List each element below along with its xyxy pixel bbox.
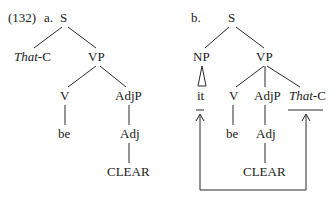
tree-a-node-that-c: That-C [14,49,51,64]
example-number: (132) [8,10,36,25]
tree-a-node-CLEAR: CLEAR [107,164,150,179]
tree-b-edge-S-NP [205,27,229,48]
tree-b-node-NP: NP [193,49,210,64]
tree-a-edge-VP-AdjP [100,66,126,87]
tree-a-node-S: S [60,10,67,25]
tree-b-node-AdjP: AdjP [254,88,281,103]
tree-b-node-V: V [229,88,239,103]
tree-b-edge-VP-V [236,66,264,87]
tree-b-node-S: S [228,10,235,25]
tree-a-node-AdjP: AdjP [115,88,142,103]
tree-b-label: b. [191,10,201,25]
tree-a-edge-VP-V [68,66,96,87]
tree-b-edge-VP-thatc [267,66,300,87]
tree-a-node-V: V [60,88,70,103]
syntax-tree-diagram: (132) a. S That-C VP V AdjP be Adj CLEAR… [0,0,336,198]
tree-a-node-Adj: Adj [120,126,140,141]
tree-b-edge-S-VP [236,27,264,48]
tree-b-node-that-c: That-C [289,88,326,103]
tree-a-edge-S-thatc [34,27,62,48]
tree-a-node-VP: VP [88,49,105,64]
tree-a-edge-S-VP [68,27,96,48]
tree-b-node-VP: VP [256,49,273,64]
tree-b-node-it: it [197,88,205,103]
tree-b-node-CLEAR: CLEAR [243,164,286,179]
tree-b-node-Adj: Adj [256,126,276,141]
tree-a-label: a. [44,10,53,25]
tree-b-np-triangle [198,66,206,86]
tree-b-node-be: be [226,126,239,141]
tree-a-node-be: be [58,126,71,141]
